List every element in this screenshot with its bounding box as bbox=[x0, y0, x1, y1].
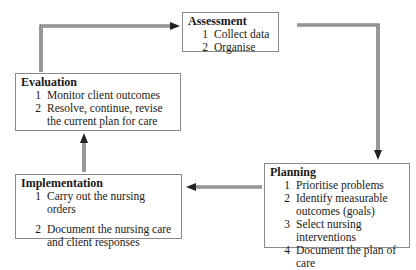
item-number: 2 bbox=[21, 223, 47, 249]
implementation-item: 1 Carry out the nursing orders bbox=[21, 190, 175, 216]
item-number: 2 bbox=[188, 41, 214, 54]
evaluation-item: 2 Resolve, continue, revise the current … bbox=[21, 102, 174, 128]
item-text: Organise bbox=[214, 41, 272, 54]
assessment-item: 1 Collect data bbox=[188, 28, 272, 41]
planning-item: 2 Identify measurable outcomes (goals) bbox=[270, 192, 403, 218]
item-text: Prioritise problems bbox=[296, 179, 403, 192]
implementation-item: 2 Document the nursing care and client r… bbox=[21, 223, 175, 249]
item-number: 3 bbox=[270, 218, 296, 244]
arrow-evaluation-to-assessment bbox=[41, 22, 180, 72]
arrow-implementation-to-evaluation bbox=[80, 133, 88, 172]
assessment-title: Assessment bbox=[188, 15, 272, 28]
item-text: Select nursing interventions bbox=[296, 218, 403, 244]
item-text: Collect data bbox=[214, 28, 272, 41]
planning-box: Planning 1 Prioritise problems 2 Identif… bbox=[264, 163, 410, 248]
evaluation-box: Evaluation 1 Monitor client outcomes 2 R… bbox=[15, 73, 181, 131]
item-text: Resolve, continue, revise the current pl… bbox=[47, 102, 174, 128]
arrow-planning-to-implementation bbox=[186, 183, 262, 191]
item-text: Document the nursing care and client res… bbox=[47, 223, 175, 249]
arrow-assessment-to-planning bbox=[297, 25, 382, 160]
evaluation-title: Evaluation bbox=[21, 76, 174, 89]
item-number: 2 bbox=[21, 102, 47, 128]
planning-item: 4 Document the plan of care bbox=[270, 244, 403, 270]
item-number: 1 bbox=[188, 28, 214, 41]
item-text: Identify measurable outcomes (goals) bbox=[296, 192, 403, 218]
assessment-item: 2 Organise bbox=[188, 41, 272, 54]
item-number: 1 bbox=[21, 190, 47, 216]
item-number: 4 bbox=[270, 244, 296, 270]
evaluation-item: 1 Monitor client outcomes bbox=[21, 89, 174, 102]
item-text: Carry out the nursing orders bbox=[47, 190, 175, 216]
assessment-box: Assessment 1 Collect data 2 Organise bbox=[182, 12, 279, 52]
item-number: 2 bbox=[270, 192, 296, 218]
item-text: Monitor client outcomes bbox=[47, 89, 174, 102]
planning-item: 3 Select nursing interventions bbox=[270, 218, 403, 244]
item-number: 1 bbox=[270, 179, 296, 192]
implementation-title: Implementation bbox=[21, 177, 175, 190]
planning-item: 1 Prioritise problems bbox=[270, 179, 403, 192]
planning-title: Planning bbox=[270, 166, 403, 179]
implementation-box: Implementation 1 Carry out the nursing o… bbox=[15, 174, 182, 239]
item-number: 1 bbox=[21, 89, 47, 102]
item-text: Document the plan of care bbox=[296, 244, 403, 270]
